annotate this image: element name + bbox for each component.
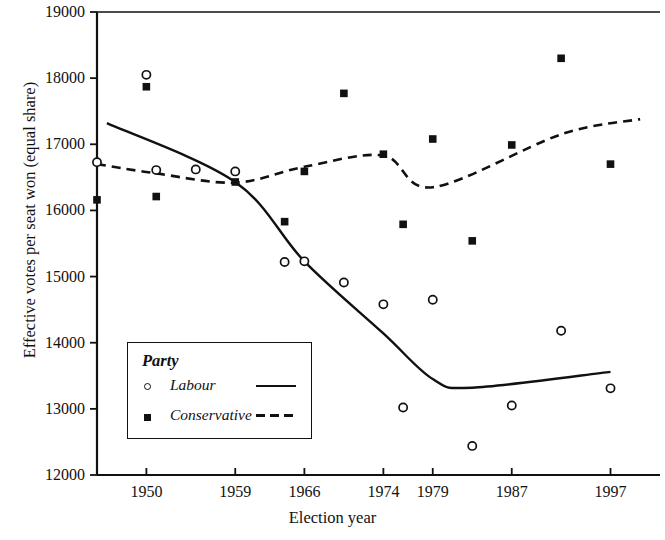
y-tick-label: 15000 xyxy=(15,269,85,285)
marker-conservative xyxy=(93,196,101,204)
marker-labour xyxy=(399,403,407,411)
marker-labour xyxy=(379,300,387,308)
legend-label-labour: Labour xyxy=(170,376,216,394)
plot-area xyxy=(0,0,665,540)
marker-labour xyxy=(468,442,476,450)
marker-labour xyxy=(429,296,437,304)
legend-marker-labour-icon xyxy=(144,383,151,390)
legend-label-conservative: Conservative xyxy=(170,406,252,424)
y-axis-title: Effective votes per seat won (equal shar… xyxy=(20,0,40,450)
marker-conservative xyxy=(143,83,151,91)
marker-labour xyxy=(152,166,160,174)
marker-conservative xyxy=(557,55,565,63)
y-tick-label: 18000 xyxy=(15,70,85,86)
chart-container: Effective votes per seat won (equal shar… xyxy=(0,0,665,540)
x-tick-label: 1997 xyxy=(571,484,651,500)
x-tick-label: 1966 xyxy=(264,484,344,500)
y-tick-label: 17000 xyxy=(15,136,85,152)
marker-labour xyxy=(192,165,200,173)
marker-labour xyxy=(508,401,516,409)
marker-labour xyxy=(281,258,289,266)
x-tick-label: 1959 xyxy=(195,484,275,500)
marker-conservative xyxy=(231,178,239,186)
marker-conservative xyxy=(380,150,388,158)
y-tick-label: 13000 xyxy=(15,401,85,417)
legend: Party Labour Conservative xyxy=(127,342,312,439)
x-axis-title: Election year xyxy=(0,508,665,528)
y-tick-label: 19000 xyxy=(15,4,85,20)
marker-conservative xyxy=(399,221,407,229)
marker-conservative xyxy=(152,193,160,201)
y-tick-label: 14000 xyxy=(15,335,85,351)
marker-labour xyxy=(606,384,614,392)
legend-line-conservative-icon xyxy=(256,414,296,417)
legend-title: Party xyxy=(142,351,179,371)
marker-conservative xyxy=(429,135,437,143)
x-tick-label: 1987 xyxy=(472,484,552,500)
marker-labour xyxy=(231,167,239,175)
legend-marker-conservative-icon xyxy=(144,414,151,421)
marker-conservative xyxy=(468,237,476,245)
marker-labour xyxy=(340,278,348,286)
marker-conservative xyxy=(607,160,615,168)
x-tick-label: 1979 xyxy=(393,484,473,500)
marker-conservative xyxy=(301,168,309,176)
marker-labour xyxy=(300,257,308,265)
x-tick-label: 1950 xyxy=(106,484,186,500)
marker-conservative xyxy=(281,218,289,226)
y-tick-label: 12000 xyxy=(15,467,85,483)
legend-line-labour-icon xyxy=(256,385,296,387)
marker-labour xyxy=(557,327,565,335)
marker-conservative xyxy=(340,90,348,98)
marker-labour xyxy=(142,71,150,79)
marker-labour xyxy=(93,158,101,166)
y-tick-label: 16000 xyxy=(15,202,85,218)
marker-conservative xyxy=(508,141,516,149)
